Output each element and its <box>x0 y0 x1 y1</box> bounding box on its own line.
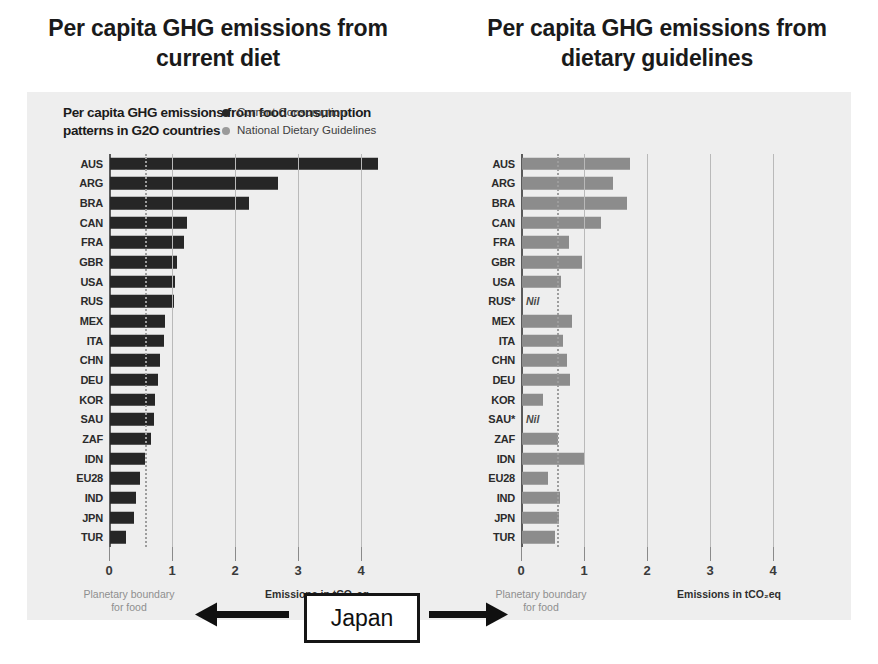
x-axis-tick-label: 3 <box>295 563 302 578</box>
bar <box>110 275 175 288</box>
bar-row: CHN <box>109 351 377 371</box>
bar <box>110 511 134 524</box>
bar-row-label: SAU* <box>488 413 515 425</box>
bar-row-label: JPN <box>82 512 103 524</box>
bar-row-label: GBR <box>79 256 103 268</box>
bar <box>522 158 630 171</box>
bar-row: TUR <box>521 527 789 547</box>
bar-row-label: SAU <box>80 413 103 425</box>
x-axis-tick <box>647 547 648 561</box>
bar <box>522 275 561 288</box>
chart-current-diet: AUSARGBRACANFRAGBRUSARUSMEXITACHNDEUKORS… <box>27 92 439 620</box>
bar-row: ZAF <box>521 429 789 449</box>
bar <box>522 452 584 465</box>
x-axis-tick <box>521 547 522 561</box>
x-axis-tick <box>773 547 774 561</box>
bar-row: JPN <box>109 508 377 528</box>
bar-row: MEX <box>521 311 789 331</box>
x-axis-tick <box>235 547 236 561</box>
bar-row: GBR <box>109 252 377 272</box>
bar <box>110 177 278 190</box>
bar-row: IND <box>521 488 789 508</box>
bar-row: IDN <box>521 449 789 469</box>
bar-row-label: ARG <box>491 177 515 189</box>
bar-row-label: USA <box>492 276 515 288</box>
bar <box>110 472 140 485</box>
x-axis-tick-label: 2 <box>643 563 650 578</box>
bar-row-label: MEX <box>80 315 103 327</box>
bar-row: FRA <box>521 233 789 253</box>
bar-row-label: GBR <box>491 256 515 268</box>
slide-title-right: Per capita GHG emissions from dietary gu… <box>452 14 862 74</box>
bar-row: MEX <box>109 311 377 331</box>
bar <box>110 158 378 171</box>
bar-row-label: CAN <box>492 217 515 229</box>
bar-row: ITA <box>109 331 377 351</box>
bar <box>522 531 555 544</box>
bar <box>522 393 543 406</box>
gridline <box>361 154 362 547</box>
bar-row-label: AUS <box>492 158 515 170</box>
planetary-boundary-line <box>145 154 147 547</box>
x-axis-tick <box>584 547 585 561</box>
slide-title-left: Per capita GHG emissions from current di… <box>18 14 418 74</box>
bar <box>110 217 187 230</box>
bar-row-label: FRA <box>493 236 515 248</box>
bar <box>522 374 570 387</box>
bar-row: BRA <box>109 193 377 213</box>
bar-row: ZAF <box>109 429 377 449</box>
x-axis-tick <box>361 547 362 561</box>
bar-row: ARG <box>521 174 789 194</box>
bar-row: CAN <box>521 213 789 233</box>
bar <box>522 492 560 505</box>
bar-row-label: EU28 <box>488 472 515 484</box>
bar <box>522 354 567 367</box>
bar-row: RUS <box>109 292 377 312</box>
bar-row: JPN <box>521 508 789 528</box>
bar <box>522 177 613 190</box>
bar-row-label: IDN <box>85 453 103 465</box>
bar <box>110 295 174 308</box>
planetary-boundary-line <box>557 154 559 547</box>
bar <box>110 256 177 269</box>
bar-row-label: ZAF <box>82 433 103 445</box>
bar-row-label: ITA <box>87 335 103 347</box>
x-axis-tick-label: 0 <box>517 563 524 578</box>
plot-area-dietary-guidelines: AUSARGBRACANFRAGBRUSARUS*NilMEXITACHNDEU… <box>521 154 789 547</box>
bar-row: EU28 <box>521 468 789 488</box>
plot-area-current-diet: AUSARGBRACANFRAGBRUSARUSMEXITACHNDEUKORS… <box>109 154 377 547</box>
bar-nil-label: Nil <box>526 295 539 307</box>
bar-row-label: DEU <box>80 374 103 386</box>
bar-row-label: CHN <box>80 354 103 366</box>
arrow-left-shaft <box>215 611 289 618</box>
bar-row: SAU*Nil <box>521 409 789 429</box>
x-axis-tick <box>172 547 173 561</box>
gridline <box>647 154 648 547</box>
bar <box>522 236 569 249</box>
bar-row: BRA <box>521 193 789 213</box>
x-axis-tick-label: 4 <box>770 563 777 578</box>
bar-row-label: CHN <box>492 354 515 366</box>
bar-row-label: KOR <box>491 394 515 406</box>
bar-row: FRA <box>109 233 377 253</box>
bar-row-label: ARG <box>79 177 103 189</box>
x-axis-tick-label: 2 <box>231 563 238 578</box>
bar-row-label: DEU <box>492 374 515 386</box>
bar-row: KOR <box>521 390 789 410</box>
bar <box>110 531 126 544</box>
x-axis-tick-label: 3 <box>707 563 714 578</box>
gridline <box>298 154 299 547</box>
x-axis-tick <box>710 547 711 561</box>
bar-row-label: RUS* <box>488 295 515 307</box>
bar-row-label: KOR <box>79 394 103 406</box>
bar-row: DEU <box>521 370 789 390</box>
bar-row: DEU <box>109 370 377 390</box>
bar <box>522 315 572 328</box>
bar-row: RUS*Nil <box>521 292 789 312</box>
bar <box>110 236 184 249</box>
bar <box>522 511 559 524</box>
bar-row-label: USA <box>80 276 103 288</box>
bar-row: ARG <box>109 174 377 194</box>
bar <box>110 393 155 406</box>
x-axis-tick <box>109 547 110 561</box>
